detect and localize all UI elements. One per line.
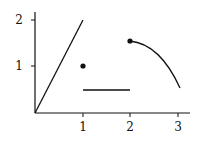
y-tick-label-1: 1 [15, 59, 23, 73]
piecewise-function-chart: 1 2 3 1 2 [0, 0, 197, 145]
line-segment-0-to-1 [35, 20, 83, 113]
concave-curve-2-to-3 [130, 41, 180, 88]
x-tick-label-3: 3 [174, 120, 182, 134]
curve-start-point [127, 38, 132, 43]
x-tick-label-2: 2 [126, 120, 134, 134]
isolated-point [80, 63, 85, 68]
y-tick-label-2: 2 [15, 13, 23, 27]
x-tick-label-1: 1 [79, 120, 87, 134]
